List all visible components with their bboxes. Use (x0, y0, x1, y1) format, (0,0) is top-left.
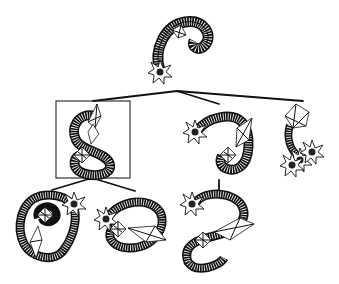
star-icon (148, 60, 172, 84)
creature-bottom-left (20, 192, 86, 258)
creature-top (148, 22, 208, 84)
lower-bar-left (52, 178, 92, 190)
creature-mid-left (74, 104, 110, 175)
creature-bottom-center (94, 202, 166, 248)
main-bar (93, 91, 303, 101)
mobile-illustration (0, 0, 339, 284)
creature-mid-right (280, 104, 324, 177)
creature-bottom-right (180, 192, 254, 268)
creature-mid-center (183, 117, 252, 170)
